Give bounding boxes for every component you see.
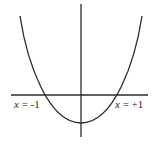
- root-label-left-value: = -1: [19, 98, 40, 110]
- root-label-right: x = +1: [115, 99, 143, 110]
- root-label-left: x = -1: [14, 99, 40, 110]
- root-label-right-value: = +1: [120, 98, 143, 110]
- graph-canvas: [0, 0, 157, 144]
- parabola-diagram: x = -1 x = +1: [0, 0, 157, 144]
